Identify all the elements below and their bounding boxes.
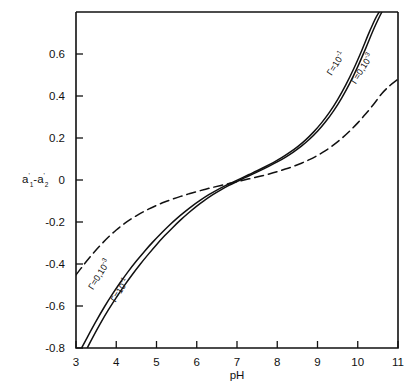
y-tick-label: -0.8 (45, 342, 65, 354)
y-tick-label: 0.2 (49, 132, 65, 144)
x-tick-label: 9 (314, 356, 320, 368)
x-tick-label: 8 (274, 356, 280, 368)
x-tick-label: 7 (234, 356, 240, 368)
y-title-sub2: 2 (45, 181, 49, 188)
y-tick-label: -0.6 (45, 300, 65, 312)
x-tick-label: 3 (73, 356, 79, 368)
y-tick-label: -0.4 (45, 258, 65, 270)
y-title-prime2: ' (44, 172, 45, 179)
y-tick-label: 0.4 (49, 90, 66, 102)
x-tick-label: 10 (351, 356, 364, 368)
x-tick-label: 6 (194, 356, 200, 368)
y-tick-label: -0.2 (45, 216, 65, 228)
y-tick-label: 0.6 (49, 48, 65, 60)
x-tick-label: 5 (153, 356, 159, 368)
x-tick-label: 11 (392, 356, 404, 368)
x-tick-label: 4 (113, 356, 120, 368)
x-axis-title: pH (230, 369, 245, 381)
figure-container: 0.60.40.20-0.2-0.4-0.6-0.8 34567891011 Γ… (0, 0, 419, 391)
y-tick-label: 0 (59, 174, 65, 186)
chart-canvas: 0.60.40.20-0.2-0.4-0.6-0.8 34567891011 Γ… (0, 0, 419, 391)
y-title-prime1: ' (28, 172, 29, 179)
